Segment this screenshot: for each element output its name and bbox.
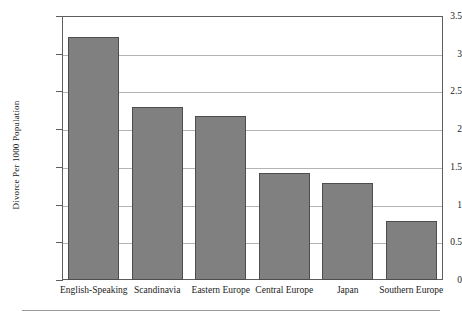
bar-slot	[259, 16, 310, 280]
bar-chart-figure: Divorce Per 1000 Population 00.511.522.5…	[0, 0, 462, 319]
bar-series	[62, 16, 443, 280]
y-axis-tick-label: 3.5	[416, 11, 462, 21]
x-axis-tick-label: Southern Europe	[366, 285, 458, 296]
y-axis-tick	[56, 280, 63, 281]
y-axis-tick	[56, 91, 63, 92]
bottom-divider-rule	[22, 310, 440, 311]
bar	[386, 221, 437, 280]
y-axis-tick-label: 0	[416, 275, 462, 285]
y-axis-tick-label: 1.5	[416, 162, 462, 172]
bar	[68, 37, 119, 280]
bar-slot	[322, 16, 373, 280]
y-axis-title: Divorce Per 1000 Population	[11, 65, 21, 245]
bar	[322, 183, 373, 280]
bar	[195, 116, 246, 280]
bar-slot	[68, 16, 119, 280]
y-axis-tick	[56, 242, 63, 243]
y-axis-tick	[56, 167, 63, 168]
y-axis-tick	[56, 129, 63, 130]
y-axis-tick-label: 1	[416, 200, 462, 210]
y-axis-tick	[56, 54, 63, 55]
y-axis-tick-label: 0.5	[416, 237, 462, 247]
y-axis-tick	[56, 205, 63, 206]
bar	[132, 107, 183, 280]
y-axis-tick-label: 2	[416, 124, 462, 134]
bar-slot	[195, 16, 246, 280]
bar	[259, 173, 310, 280]
bar-slot	[132, 16, 183, 280]
y-axis-tick-label: 3	[416, 49, 462, 59]
y-axis-tick-label: 2.5	[416, 86, 462, 96]
y-axis-tick	[56, 16, 63, 17]
